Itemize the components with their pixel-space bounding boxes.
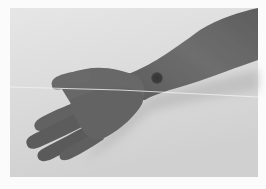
wrist-spot — [151, 72, 163, 84]
photo — [0, 0, 266, 189]
photo-frame — [0, 0, 266, 189]
